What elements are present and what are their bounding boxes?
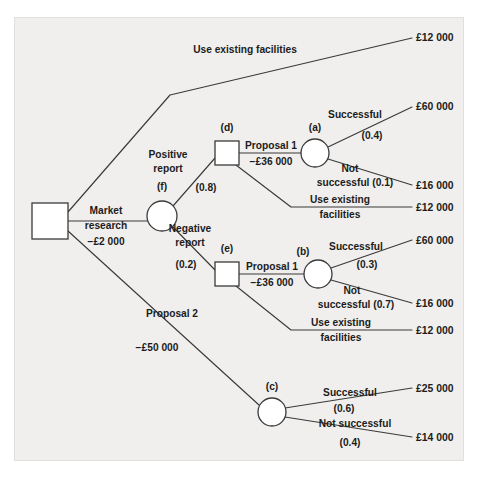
label-positive-report-prob: (0.8) (196, 182, 217, 193)
payoff-successful-a: £60 000 (416, 101, 454, 112)
label-successful-a: Successful (328, 109, 382, 120)
label-use-existing-d: Use existing (310, 194, 370, 205)
label-successful-a-prob: (0.4) (362, 130, 383, 141)
label-negative-report-prob: (0.2) (176, 259, 197, 270)
chance-node-b[interactable] (304, 260, 332, 288)
payoff-use-existing-top: £12 000 (416, 32, 454, 43)
node-id-label-f: (f) (157, 181, 167, 192)
payoff-use-existing-e: £12 000 (416, 325, 454, 336)
node-id-label-a: (a) (309, 122, 321, 133)
label-successful-b-prob: (0.3) (357, 259, 378, 270)
label-not-successful-c: Not successful (319, 418, 392, 429)
label-proposal-1-e-cost: −£36 000 (251, 277, 294, 288)
node-id-label-b: (b) (296, 246, 309, 257)
label-not-successful-b: Not (344, 285, 362, 296)
label-successful-c: Successful (323, 387, 377, 398)
payoff-not-successful-c: £14 000 (416, 432, 454, 443)
label-not-successful-a: Not (342, 163, 360, 174)
decision-node-d[interactable] (215, 141, 239, 165)
payoff-successful-b: £60 000 (416, 235, 454, 246)
label-use-existing-e: Use existing (311, 317, 371, 328)
payoff-not-successful-b: £16 000 (416, 298, 454, 309)
label-use-existing-facilities-top: Use existing facilities (193, 44, 297, 55)
label-not-successful-c-prob: (0.4) (340, 437, 361, 448)
payoff-successful-c: £25 000 (416, 383, 454, 394)
chance-node-c[interactable] (258, 398, 286, 426)
node-id-label-c: (c) (266, 381, 278, 392)
label-proposal-2-cost: −£50 000 (136, 342, 179, 353)
payoff-use-existing-d: £12 000 (416, 202, 454, 213)
label-market-research: Market (90, 205, 123, 216)
decision-tree-figure: (f)(d)(e)(a)(b)(c)Use existing facilitie… (0, 0, 478, 479)
label-proposal-1-d-cost: −£36 000 (250, 156, 293, 167)
chance-node-a[interactable] (301, 139, 329, 167)
label-market-research-cost: −£2 000 (87, 236, 124, 247)
decision-node-root[interactable] (32, 203, 68, 239)
node-id-label-d: (d) (220, 122, 233, 133)
label-negative-report: Negative (169, 223, 212, 234)
label-successful-b: Successful (329, 241, 383, 252)
label-proposal-1-d: Proposal 1 (245, 140, 297, 151)
label-use-existing-d-2: facilities (320, 209, 361, 220)
label-negative-report-2: report (175, 237, 205, 248)
tree-payoffs-group: £12 000£60 000£16 000£12 000£60 000£16 0… (416, 32, 454, 443)
decision-tree-canvas: (f)(d)(e)(a)(b)(c)Use existing facilitie… (0, 0, 478, 479)
label-proposal-2: Proposal 2 (146, 308, 198, 319)
label-not-successful-b-2: successful (0.7) (318, 299, 394, 310)
label-proposal-1-e: Proposal 1 (246, 261, 298, 272)
label-use-existing-e-2: facilities (321, 332, 362, 343)
label-not-successful-a-2: successful (0.1) (317, 177, 393, 188)
payoff-not-successful-a: £16 000 (416, 180, 454, 191)
label-positive-report: Positive (148, 149, 187, 160)
label-positive-report-2: report (153, 163, 183, 174)
node-id-label-e: (e) (221, 243, 233, 254)
label-successful-c-prob: (0.6) (334, 403, 355, 414)
label-market-research-2: research (85, 220, 127, 231)
decision-node-e[interactable] (215, 262, 239, 286)
